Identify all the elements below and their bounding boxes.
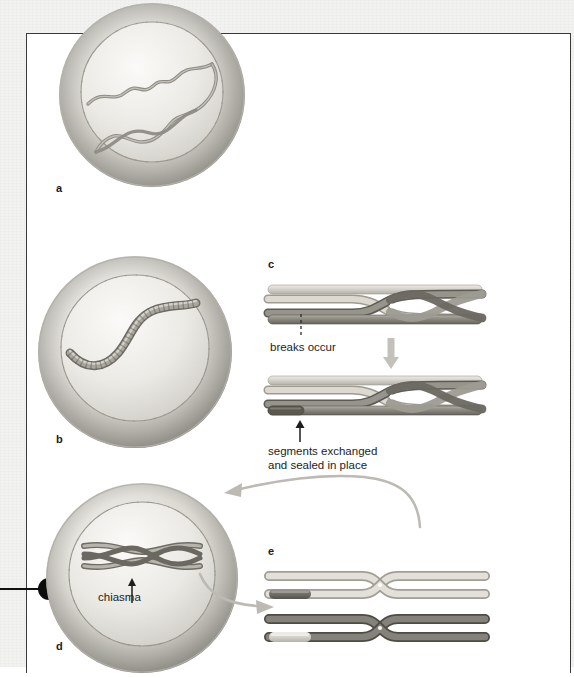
- panel-label-a: a: [56, 182, 62, 194]
- annotation-chiasma: chiasma: [98, 590, 141, 604]
- down-arrow-icon: [382, 338, 400, 370]
- up-arrow-icon: [294, 420, 306, 442]
- panel-label-b: b: [56, 433, 63, 445]
- panel-label-e: e: [268, 545, 274, 557]
- panel-b-nucleus: [30, 245, 240, 455]
- panel-a-nucleus: [52, 0, 252, 192]
- panel-e-chromosome-dark: [266, 613, 488, 647]
- dashed-break-line-icon: [298, 314, 304, 338]
- panel-e-chromosome-light: [266, 570, 488, 604]
- panel-c-bivalent-after: [266, 373, 484, 419]
- panel-label-c: c: [268, 258, 274, 270]
- panel-label-d: d: [56, 640, 63, 652]
- annotation-breaks-occur: breaks occur: [270, 340, 336, 354]
